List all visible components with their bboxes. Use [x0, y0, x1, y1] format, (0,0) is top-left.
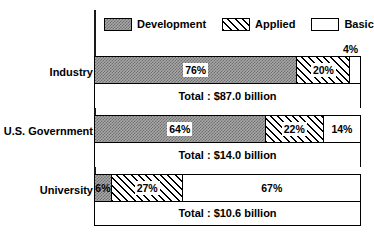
segment-us-government-development: 64% — [95, 116, 265, 142]
legend-label-applied: Applied — [255, 19, 295, 30]
legend-swatch-basic-icon — [311, 18, 339, 31]
segment-label-industry-development: 76% — [184, 64, 207, 77]
segment-industry-development: 76% — [95, 57, 296, 83]
category-label-university: University — [0, 185, 93, 196]
category-label-us-government: U.S. Government — [0, 126, 93, 137]
segment-label-industry-applied: 20% — [312, 64, 335, 77]
total-box-university: Total : $10.6 billion — [94, 202, 361, 226]
total-box-industry: Total : $87.0 billion — [94, 84, 361, 108]
legend-swatch-development-icon — [104, 18, 132, 31]
segment-industry-applied: 20% — [296, 57, 349, 83]
segment-label-us-government-basic: 14% — [330, 123, 353, 136]
segment-university-applied: 27% — [111, 175, 183, 201]
total-label-us-government: Total : $14.0 billion — [178, 150, 276, 161]
category-label-industry: Industry — [0, 67, 93, 78]
legend-swatch-applied-icon — [222, 18, 250, 31]
bar-industry: 76% 20% 4% — [94, 56, 361, 84]
industry-basic-outer-label: 4% — [343, 44, 358, 55]
segment-industry-basic: 4% — [349, 57, 360, 83]
segment-label-us-government-development: 64% — [168, 123, 191, 136]
segment-us-government-applied: 22% — [265, 116, 323, 142]
total-label-industry: Total : $87.0 billion — [178, 91, 276, 102]
segment-label-university-basic: 67% — [260, 182, 283, 195]
legend-item-applied: Applied — [222, 18, 295, 31]
segment-university-basic: 67% — [182, 175, 360, 201]
chart-legend: Development Applied Basic — [104, 14, 374, 34]
legend-item-basic: Basic — [311, 18, 373, 31]
total-box-us-government: Total : $14.0 billion — [94, 143, 361, 167]
segment-us-government-basic: 14% — [323, 116, 360, 142]
total-label-university: Total : $10.6 billion — [178, 208, 276, 219]
legend-item-development: Development — [104, 18, 206, 31]
bar-university: 6% 27% 67% — [94, 174, 361, 202]
segment-label-university-applied: 27% — [136, 182, 159, 195]
segment-label-us-government-applied: 22% — [283, 123, 306, 136]
segment-university-development: 6% — [95, 175, 111, 201]
segment-label-university-development: 6% — [95, 182, 111, 195]
legend-label-development: Development — [137, 19, 206, 30]
legend-label-basic: Basic — [344, 19, 373, 30]
bar-us-government: 64% 22% 14% — [94, 115, 361, 143]
